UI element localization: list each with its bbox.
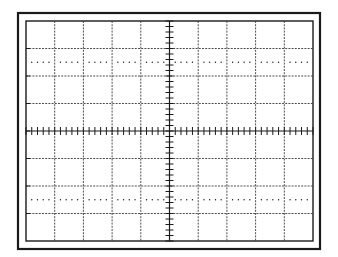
reference-dot <box>94 62 95 63</box>
reference-dot <box>238 62 239 63</box>
reference-dot <box>215 62 216 63</box>
reference-dot <box>134 199 135 200</box>
reference-dot <box>43 62 44 63</box>
reference-dot <box>215 199 216 200</box>
reference-dot <box>261 199 262 200</box>
reference-dot <box>48 62 49 63</box>
reference-dot <box>249 199 250 200</box>
reference-dot <box>43 199 44 200</box>
reference-dot <box>278 199 279 200</box>
reference-dot <box>37 62 38 63</box>
reference-dot <box>60 199 61 200</box>
reference-dot <box>209 62 210 63</box>
reference-dot <box>31 199 32 200</box>
reference-dot <box>65 62 66 63</box>
reference-dot <box>100 62 101 63</box>
reference-dot <box>134 62 135 63</box>
reference-dot <box>232 199 233 200</box>
reference-dot <box>152 199 153 200</box>
reference-dot <box>117 199 118 200</box>
reference-dot <box>65 199 66 200</box>
reference-dot <box>186 62 187 63</box>
reference-dot <box>175 199 176 200</box>
reference-dot <box>261 62 262 63</box>
reference-dot <box>289 199 290 200</box>
reference-dot <box>301 62 302 63</box>
reference-dot <box>163 62 164 63</box>
reference-dot <box>220 199 221 200</box>
reference-dot <box>117 62 118 63</box>
reference-dot <box>232 62 233 63</box>
reference-dot <box>295 62 296 63</box>
reference-dot <box>94 199 95 200</box>
reference-dot <box>146 62 147 63</box>
reference-dot <box>243 199 244 200</box>
reference-dot <box>100 199 101 200</box>
reference-dot <box>249 62 250 63</box>
reference-dot <box>31 62 32 63</box>
reference-dot <box>272 62 273 63</box>
reference-dot <box>266 62 267 63</box>
reference-dot <box>60 62 61 63</box>
reference-dot <box>243 62 244 63</box>
reference-dot <box>88 62 89 63</box>
reference-dot <box>129 199 130 200</box>
reference-dot <box>48 199 49 200</box>
reference-dot <box>175 62 176 63</box>
reference-dot <box>77 62 78 63</box>
reference-dot <box>152 62 153 63</box>
reference-dot <box>220 62 221 63</box>
reference-dot <box>266 199 267 200</box>
reference-dot <box>278 62 279 63</box>
reference-dot <box>106 62 107 63</box>
reference-dot <box>180 199 181 200</box>
reference-dot <box>295 199 296 200</box>
reference-dot <box>163 199 164 200</box>
reference-dot <box>71 62 72 63</box>
reference-dot <box>146 199 147 200</box>
reference-dot <box>203 199 204 200</box>
reference-dot <box>192 199 193 200</box>
oscilloscope-graticule <box>0 0 338 257</box>
reference-dot <box>157 62 158 63</box>
reference-dot <box>123 199 124 200</box>
reference-dot <box>157 199 158 200</box>
reference-dot <box>77 199 78 200</box>
reference-dot <box>180 62 181 63</box>
reference-dot <box>186 199 187 200</box>
reference-dot <box>123 62 124 63</box>
reference-dot <box>203 62 204 63</box>
reference-dot <box>37 199 38 200</box>
reference-dot <box>307 199 308 200</box>
reference-dot <box>209 199 210 200</box>
reference-dot <box>129 62 130 63</box>
reference-dot <box>238 199 239 200</box>
reference-dot <box>307 62 308 63</box>
reference-dot <box>71 199 72 200</box>
reference-dot <box>272 199 273 200</box>
reference-dot <box>289 62 290 63</box>
reference-dot <box>88 199 89 200</box>
reference-dot <box>192 62 193 63</box>
reference-dot <box>106 199 107 200</box>
reference-dot <box>301 199 302 200</box>
